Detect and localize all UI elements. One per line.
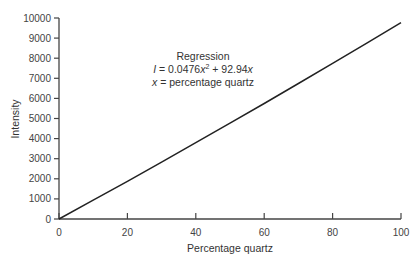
x-axis-title: Percentage quartz: [187, 242, 273, 254]
y-tick-label: 4000: [29, 133, 52, 144]
x-tick-label: 20: [122, 227, 134, 238]
annotation-equation: I = 0.0476x2 + 92.94x: [153, 63, 253, 75]
y-tick-label: 2000: [29, 173, 52, 184]
y-tick-label: 0: [45, 214, 51, 225]
y-tick-label: 9000: [29, 33, 52, 44]
y-tick-label: 10000: [23, 13, 51, 24]
y-tick-label: 8000: [29, 53, 52, 64]
y-tick-label: 7000: [29, 73, 52, 84]
y-tick-label: 6000: [29, 93, 52, 104]
x-tick-label: 100: [393, 227, 410, 238]
annotation-definition: x = percentage quartz: [151, 76, 254, 88]
y-tick-label: 1000: [29, 193, 52, 204]
regression-line: [59, 23, 401, 219]
annotation-title: Regression: [176, 50, 229, 62]
x-axis-ticks: 020406080100: [56, 213, 410, 238]
regression-annotation: Regression I = 0.0476x2 + 92.94x x = per…: [151, 50, 254, 88]
x-tick-label: 40: [190, 227, 202, 238]
x-tick-label: 80: [327, 227, 339, 238]
y-tick-label: 3000: [29, 153, 52, 164]
x-tick-label: 60: [259, 227, 271, 238]
x-tick-label: 0: [56, 227, 62, 238]
chart: 0100020003000400050006000700080009000100…: [0, 0, 420, 267]
y-axis-title: Intensity: [9, 99, 21, 139]
y-axis-ticks: 0100020003000400050006000700080009000100…: [23, 13, 59, 225]
y-tick-label: 5000: [29, 113, 52, 124]
